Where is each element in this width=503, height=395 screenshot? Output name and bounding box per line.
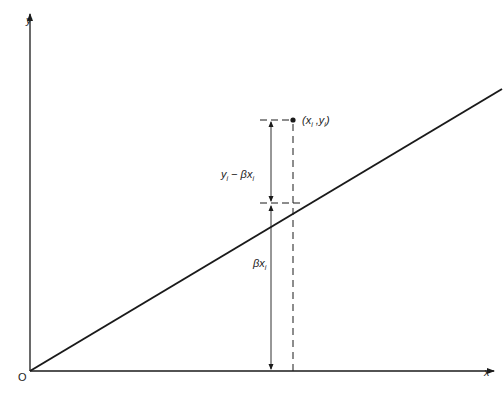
regression-diagram: y x O (xi ,yi) yi − βxi βxi — [0, 0, 503, 395]
residual-label: yi − βxi — [220, 168, 254, 182]
y-axis-label: y — [25, 14, 33, 26]
data-point — [290, 117, 295, 122]
fitted-value-label: βxi — [252, 257, 267, 271]
x-axis-label: x — [483, 366, 490, 378]
origin-label: O — [18, 371, 27, 383]
point-label: (xi ,yi) — [302, 114, 330, 128]
regression-line — [30, 89, 502, 371]
